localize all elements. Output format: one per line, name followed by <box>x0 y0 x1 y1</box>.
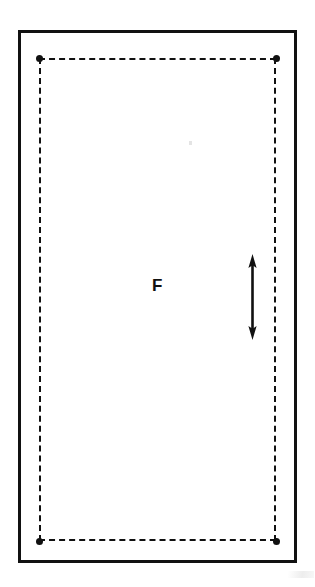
scan-smudge-artifact <box>288 571 314 578</box>
corner-node-top-right <box>273 55 280 62</box>
dashed-edge-bottom <box>39 539 276 541</box>
corner-node-bottom-left <box>36 538 43 545</box>
corner-node-bottom-right <box>273 538 280 545</box>
dashed-edge-right <box>274 58 276 541</box>
region-label-F: F <box>152 276 163 296</box>
region-label-container: F <box>0 276 315 296</box>
figure-canvas: F <box>0 0 315 587</box>
scan-speck-artifact <box>189 141 192 145</box>
double-headed-arrow-icon <box>245 253 260 341</box>
corner-node-top-left <box>36 55 43 62</box>
dashed-region-rectangle <box>39 58 276 541</box>
dashed-edge-left <box>39 58 41 541</box>
dimension-arrow-vertical <box>245 253 260 341</box>
dashed-edge-top <box>39 58 276 60</box>
